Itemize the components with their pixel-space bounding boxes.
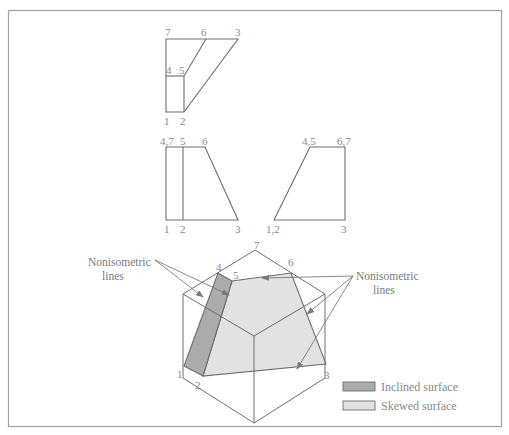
side-label-4-5: 4,5 (302, 135, 316, 147)
legend-swatch-inclined (343, 382, 375, 391)
legend-label-inclined: Inclined surface (381, 380, 458, 394)
legend-label-skewed: Skewed surface (381, 399, 457, 413)
side-view (274, 147, 345, 220)
top-view (166, 39, 238, 112)
legend: Inclined surface Skewed surface (343, 380, 458, 413)
side-label-3: 3 (341, 223, 347, 235)
front-label-3: 3 (235, 223, 241, 235)
multiview-isometric-figure: 7 6 3 4 5 1 2 4,7 5 6 1 2 3 4,5 6,7 1,2 … (0, 0, 509, 435)
front-label-1: 1 (164, 223, 170, 235)
front-label-5: 5 (180, 135, 186, 147)
front-label-4-7: 4,7 (160, 135, 174, 147)
top-label-3: 3 (235, 26, 241, 38)
front-view (166, 147, 238, 220)
side-label-1-2: 1,2 (266, 223, 280, 235)
top-label-5: 5 (179, 64, 185, 76)
iso-label-3: 3 (324, 369, 330, 381)
top-label-7: 7 (165, 26, 171, 38)
iso-label-2: 2 (195, 379, 201, 391)
top-label-1: 1 (164, 115, 170, 127)
iso-label-7: 7 (254, 239, 260, 251)
top-label-4: 4 (166, 64, 172, 76)
iso-label-4: 4 (216, 261, 222, 273)
right-annotation-line1: Nonisometric (356, 270, 419, 282)
iso-label-6: 6 (288, 256, 294, 268)
isometric-view (183, 250, 326, 423)
iso-label-5: 5 (233, 269, 239, 281)
top-label-2: 2 (180, 115, 186, 127)
right-annotation-line2: lines (373, 284, 395, 296)
top-label-6: 6 (201, 26, 207, 38)
legend-swatch-skewed (343, 401, 375, 410)
side-label-6-7: 6,7 (337, 135, 351, 147)
left-annotation-line2: lines (102, 270, 124, 282)
front-label-2: 2 (180, 223, 186, 235)
left-annotation-line1: Nonisometric (88, 256, 151, 268)
front-label-6: 6 (202, 135, 208, 147)
iso-label-1: 1 (177, 368, 183, 380)
